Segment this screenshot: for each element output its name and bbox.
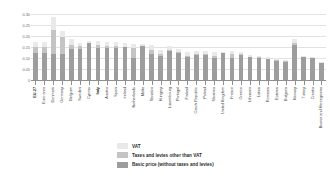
bar-segment bbox=[257, 58, 262, 80]
x-axis-label-cell: Italy bbox=[94, 87, 103, 147]
bar-column bbox=[138, 14, 147, 80]
x-axis-tick bbox=[192, 80, 201, 86]
bar-column bbox=[201, 14, 210, 80]
x-axis-label-cell: Malta bbox=[138, 87, 147, 147]
x-axis-label-cell: Croatia bbox=[308, 87, 317, 147]
y-axis: 0.300.250.200.150.100.050 bbox=[12, 14, 30, 80]
legend-label: Basic price (without taxes and levies) bbox=[132, 162, 214, 167]
bar-segment bbox=[51, 30, 56, 54]
x-axis-label-cell: Luxembourg bbox=[165, 87, 174, 147]
x-axis-label-cell: Bulgaria bbox=[281, 87, 290, 147]
bar-stack bbox=[149, 45, 154, 80]
bar-stack bbox=[203, 51, 208, 80]
bar-column bbox=[192, 14, 201, 80]
x-axis-label-cell: Latvia bbox=[254, 87, 263, 147]
y-axis-tick-label: 0.10 bbox=[23, 56, 30, 61]
x-axis-tick bbox=[254, 80, 263, 86]
bar-segment bbox=[123, 47, 128, 80]
bar-group bbox=[31, 14, 326, 80]
bar-segment bbox=[51, 17, 56, 30]
bar-stack bbox=[301, 56, 306, 80]
bar-column bbox=[299, 14, 308, 80]
x-axis-label-cell: Estonia bbox=[272, 87, 281, 147]
x-axis-label: Denmark bbox=[51, 87, 55, 102]
bar-column bbox=[111, 14, 120, 80]
bar-column bbox=[272, 14, 281, 80]
bar-stack bbox=[33, 42, 38, 80]
bar-column bbox=[165, 14, 174, 80]
bar-stack bbox=[221, 52, 226, 80]
x-axis-tick bbox=[201, 80, 210, 86]
bar-column bbox=[228, 14, 237, 80]
bar-stack bbox=[319, 62, 324, 80]
bar-segment bbox=[114, 48, 119, 80]
bar-stack bbox=[283, 60, 288, 80]
x-axis-label: Spain bbox=[114, 87, 118, 97]
legend-item: VAT bbox=[117, 143, 214, 149]
x-axis-label: Croatia bbox=[310, 87, 314, 99]
x-axis-label-cell: France bbox=[228, 87, 237, 147]
x-axis-tick bbox=[165, 80, 174, 86]
x-axis-tick bbox=[31, 80, 40, 86]
bar-segment bbox=[33, 53, 38, 80]
bar-stack bbox=[105, 42, 110, 80]
bar-segment bbox=[51, 54, 56, 80]
x-axis-label-cell: EU-27 bbox=[31, 87, 40, 147]
x-axis-label: Latvia bbox=[257, 87, 261, 97]
x-axis-label: Estonia bbox=[275, 87, 279, 100]
legend-item: Taxes and levies other than VAT bbox=[117, 152, 214, 158]
x-axis-label: Bosnia and Herzegovina bbox=[319, 87, 323, 128]
x-axis-label-cell: Germany bbox=[58, 87, 67, 147]
bar-stack bbox=[167, 46, 172, 80]
x-axis-tick bbox=[308, 80, 317, 86]
x-axis-label: Turkey bbox=[301, 87, 305, 98]
stacked-bar-chart: 0.300.250.200.150.100.050 EU-27Euro area… bbox=[0, 0, 336, 183]
bar-segment bbox=[292, 45, 297, 80]
x-axis-label-cell: Slovenia bbox=[210, 87, 219, 147]
bar-column bbox=[219, 14, 228, 80]
legend-item: Basic price (without taxes and levies) bbox=[117, 162, 214, 168]
x-axis-label: Finland bbox=[185, 87, 189, 99]
bar-stack bbox=[266, 57, 271, 80]
x-axis-tick bbox=[58, 80, 67, 86]
bar-column bbox=[290, 14, 299, 80]
x-axis-label-cell: Greece bbox=[237, 87, 246, 147]
x-axis-tick bbox=[263, 80, 272, 86]
x-axis-tick bbox=[120, 80, 129, 86]
bar-stack bbox=[131, 44, 136, 80]
bar-column bbox=[129, 14, 138, 80]
bar-stack bbox=[158, 50, 163, 80]
x-axis-label: Luxembourg bbox=[167, 87, 171, 108]
x-axis-label-cell: Euro area bbox=[40, 87, 49, 147]
x-axis-label: Slovenia bbox=[212, 87, 216, 102]
bar-column bbox=[76, 14, 85, 80]
bar-column bbox=[254, 14, 263, 80]
x-axis-ticks bbox=[31, 80, 326, 86]
y-axis-tick-label: 0.05 bbox=[23, 67, 30, 72]
x-axis-tick bbox=[237, 80, 246, 86]
x-axis-label: Austria bbox=[105, 87, 109, 99]
y-axis-tick-label: 0.25 bbox=[23, 23, 30, 28]
bar-column bbox=[183, 14, 192, 80]
y-axis-tick-label: 0.20 bbox=[23, 34, 30, 39]
bar-segment bbox=[69, 49, 74, 80]
x-axis-tick bbox=[272, 80, 281, 86]
x-axis-tick bbox=[183, 80, 192, 86]
x-axis-label: Slovakia bbox=[150, 87, 154, 101]
bar-stack bbox=[257, 56, 262, 80]
x-axis-label-cell: Romania bbox=[263, 87, 272, 147]
x-axis-tick bbox=[129, 80, 138, 86]
x-axis-label: Czech Republic bbox=[194, 87, 198, 114]
bar-segment bbox=[230, 58, 235, 80]
bar-column bbox=[174, 14, 183, 80]
bar-segment bbox=[60, 31, 65, 38]
bar-segment bbox=[140, 46, 145, 80]
bar-segment bbox=[212, 58, 217, 80]
bar-segment bbox=[266, 59, 271, 80]
x-axis-label-cell: Portugal bbox=[174, 87, 183, 147]
legend-label: VAT bbox=[132, 144, 141, 149]
x-axis-label-cell: Netherlands bbox=[129, 87, 138, 147]
bar-stack bbox=[185, 52, 190, 80]
bar-segment bbox=[319, 63, 324, 80]
bar-column bbox=[263, 14, 272, 80]
